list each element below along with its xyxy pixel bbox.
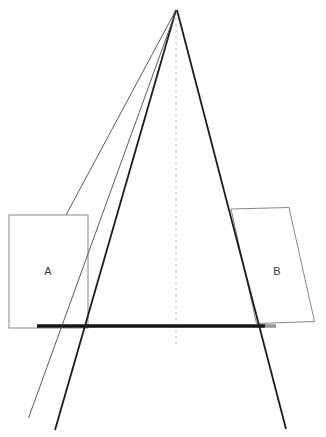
sight-line-upper — [66, 10, 176, 215]
plane-a-label: A — [44, 266, 51, 277]
perspective-cone-diagram — [0, 0, 326, 437]
plane-b-label: B — [273, 266, 280, 277]
diagram-canvas: A B — [0, 0, 326, 437]
